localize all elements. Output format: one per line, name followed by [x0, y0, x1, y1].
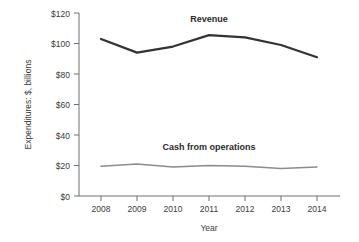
x-tick-label-2013: 2013: [272, 204, 291, 214]
x-tick-label-2008: 2008: [92, 204, 111, 214]
y-tick-label-80: $80: [56, 70, 70, 80]
x-tick-label-2014: 2014: [308, 204, 327, 214]
x-tick-label-2009: 2009: [128, 204, 147, 214]
y-tick-label-20: $20: [56, 161, 70, 171]
y-axis-title: Expenditures: $, billions: [23, 60, 33, 150]
y-tick-label-120: $120: [51, 9, 70, 19]
y-tick-label-100: $100: [51, 39, 70, 49]
series-label-revenue: Revenue: [190, 14, 228, 24]
y-tick-label-40: $40: [56, 131, 70, 141]
chart-container: $120 $100 $80 $60 $40 $20 $0 Expenditure…: [0, 0, 359, 242]
series-label-cash-from-operations: Cash from operations: [162, 142, 255, 152]
x-tick-label-2011: 2011: [200, 204, 219, 214]
line-chart: $120 $100 $80 $60 $40 $20 $0 Expenditure…: [0, 0, 359, 242]
y-tick-label-0: $0: [61, 192, 71, 202]
x-tick-label-2012: 2012: [236, 204, 255, 214]
x-axis-title: Year: [200, 223, 217, 233]
y-tick-label-60: $60: [56, 100, 70, 110]
x-tick-label-2010: 2010: [164, 204, 183, 214]
